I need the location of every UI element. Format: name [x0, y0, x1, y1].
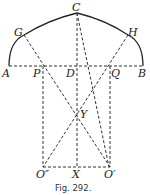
figure-caption: Fig. 292. [55, 183, 91, 193]
label-y: Y [80, 108, 89, 121]
label-q: Q [111, 67, 120, 80]
arch-right [77, 13, 143, 66]
label-o1: O′ [104, 168, 116, 181]
label-h: H [127, 26, 138, 39]
label-a: A [1, 67, 10, 80]
label-g: G [14, 26, 23, 39]
label-c: C [72, 1, 81, 14]
geometric-figure: C G H A P D Q B Y O″ X O′ Fig. 292. [0, 0, 150, 195]
label-o2: O″ [36, 168, 50, 181]
radius-g-o1 [24, 35, 110, 167]
label-b: B [137, 67, 146, 80]
label-p: P [32, 67, 41, 80]
label-d: D [65, 67, 75, 80]
label-x: X [71, 168, 81, 181]
arch-left [9, 13, 77, 66]
